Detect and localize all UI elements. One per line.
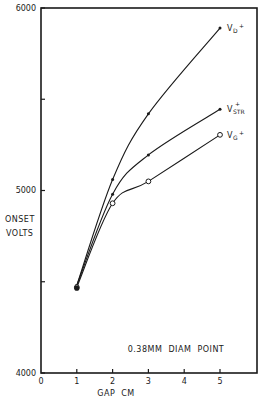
x-axis-ticks: 012345: [38, 369, 222, 386]
series-layer: VD+VSTR+VG+: [74, 22, 244, 291]
data-point-open-circle: [146, 179, 151, 184]
series-v-g-: VG+: [74, 129, 244, 290]
data-point-dot: [147, 153, 150, 156]
onset-voltage-chart: 6000 5000 4000 ONSET VOLTS 012345 GAP CM…: [0, 0, 266, 399]
series-label-superscript: +: [239, 22, 244, 29]
data-point-dot: [111, 193, 114, 196]
series-v-d-: VD+: [75, 22, 244, 287]
data-point-dot: [219, 108, 222, 111]
series-label-superscript: +: [235, 100, 240, 107]
y-tick-label-5000: 5000: [16, 186, 36, 195]
data-point-open-circle: [110, 201, 115, 206]
plot-frame: [41, 8, 257, 373]
y-tick-label-6000: 6000: [16, 4, 36, 13]
data-point-dot: [111, 178, 114, 181]
series-label-subscript: STR: [233, 108, 245, 115]
series-line: [77, 28, 220, 285]
x-tick-label-4: 4: [182, 377, 187, 386]
y-tick-label-4000: 4000: [16, 369, 36, 378]
data-point-origin: [74, 286, 79, 291]
y-axis-label-line2: VOLTS: [6, 229, 33, 238]
series-label-subscript: D: [233, 27, 238, 34]
data-point-dot: [219, 27, 222, 30]
series-v-str-: VSTR+: [75, 100, 244, 287]
series-line: [77, 135, 220, 287]
x-tick-label-3: 3: [146, 377, 151, 386]
data-point-dot: [147, 112, 150, 115]
x-axis-label: GAP CM: [97, 389, 135, 398]
series-line: [77, 109, 220, 285]
y-axis-label-line1: ONSET: [5, 215, 35, 224]
x-tick-label-2: 2: [110, 377, 115, 386]
data-point-open-circle: [218, 132, 223, 137]
x-tick-label-0: 0: [38, 377, 43, 386]
chart-annotation: 0.38MM DIAM POINT: [128, 345, 225, 354]
x-tick-label-5: 5: [217, 377, 222, 386]
series-label-superscript: +: [239, 129, 244, 136]
x-tick-label-1: 1: [74, 377, 79, 386]
series-label-subscript: G: [233, 134, 238, 141]
